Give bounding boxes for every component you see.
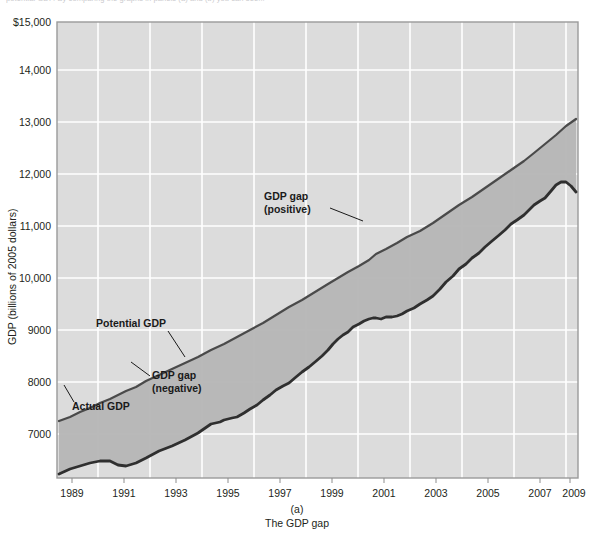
x-axis-ticks: 1989 1991 1993 1995 1997 1999 2001 2003 … [60, 487, 586, 499]
x-tick-label: 1989 [60, 487, 84, 499]
y-tick-label: 14,000 [19, 64, 51, 76]
annotation-label-line1: Actual GDP [72, 400, 130, 412]
y-tick-label: 8000 [28, 376, 52, 388]
y-tick-label: 13,000 [19, 116, 51, 128]
annotation-label-line1: GDP gap [152, 369, 196, 381]
x-tick-label: 2007 [528, 487, 552, 499]
panel-label: (a) [291, 503, 304, 515]
x-tick-label: 2005 [476, 487, 500, 499]
y-tick-label: 12,000 [19, 168, 51, 180]
y-tick-label: 9000 [28, 324, 52, 336]
y-tick-label: 11,000 [20, 220, 51, 232]
y-tick-label: 10,000 [19, 272, 51, 284]
figure-caption: The GDP gap [265, 517, 329, 529]
x-tick-label: 2003 [424, 487, 448, 499]
annotation-label-line1: Potential GDP [96, 317, 166, 329]
annotation-label-line2: (negative) [152, 382, 202, 394]
x-tick-label: 1997 [268, 487, 292, 499]
y-axis-ticks: $15,000 14,000 13,000 12,000 11,000 10,0… [13, 16, 51, 440]
x-tick-label: 2009 [562, 487, 586, 499]
y-tick-label: 7000 [28, 428, 52, 440]
x-tick-label: 2001 [372, 487, 396, 499]
x-tick-label: 1999 [320, 487, 344, 499]
gdp-gap-chart: $15,000 14,000 13,000 12,000 11,000 10,0… [0, 0, 594, 535]
annotation-label-line1: GDP gap [264, 190, 308, 202]
gdp-gap-figure: potential GDP. By comparing the graphs i… [0, 0, 594, 535]
x-tick-label: 1995 [216, 487, 240, 499]
x-tick-label: 1993 [164, 487, 188, 499]
x-axis-tickmarks [72, 478, 570, 483]
x-tick-label: 1991 [112, 487, 136, 499]
y-axis-title: GDP (billions of 2005 dollars) [6, 209, 18, 345]
annotation-label-line2: (positive) [264, 203, 311, 215]
y-tick-label: $15,000 [13, 16, 51, 28]
